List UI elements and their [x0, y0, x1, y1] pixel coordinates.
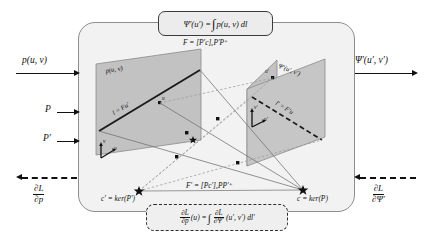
fundamental-forward-label: F = [P′c]ₓP′P⁺ — [183, 38, 228, 47]
grad-psi-arrow — [360, 177, 416, 179]
figure-root: p(u, v) l = Fu′ u v u Ψ′(u′, v′) l′ = F′… — [0, 0, 431, 239]
grad-p-arrowhead — [16, 174, 22, 180]
integral-sign-backward: ∫ — [208, 212, 211, 224]
left-axis-v-label: v — [103, 138, 105, 144]
grad-psi-label: ∂L ∂Ψ′ — [370, 184, 387, 204]
right-axis-v-label: v′ — [254, 104, 258, 110]
grad-psi-fraction: ∂L ∂Ψ′ — [213, 210, 225, 226]
left-camera-center-label: c′ = ker(P′) — [101, 194, 135, 203]
integral-sign: ∫ — [212, 16, 216, 32]
input-P-label: P — [45, 104, 51, 114]
output-signal-arrowhead — [412, 70, 418, 76]
input-signal-arrow — [16, 73, 76, 74]
right-camera-center-label: c = ker(P) — [297, 194, 328, 203]
grad-p-denominator: ∂p — [180, 218, 189, 225]
forward-eq-integrand: p(u, v) dl — [217, 19, 248, 29]
output-signal-arrow — [355, 73, 413, 74]
backward-eq-lhs-arg: (u) = — [191, 213, 207, 222]
grad-psi-output-fraction: ∂L ∂Ψ′ — [371, 184, 386, 204]
fundamental-backward-label: F′ = [Pc′]ₓPP′⁺ — [186, 181, 233, 190]
grad-p-arrow — [22, 177, 77, 179]
forward-equation-box: Ψ′(u′) = ∫ p(u, v) dl — [158, 11, 273, 36]
right-point-u-marker — [271, 76, 274, 79]
grad-psi-output-denominator: ∂Ψ′ — [371, 195, 386, 204]
grad-p-label: ∂L ∂p — [32, 184, 45, 204]
output-signal-label: Ψ′(u′, v′) — [355, 55, 388, 65]
grad-psi-denominator: ∂Ψ′ — [213, 218, 225, 225]
input-signal-label: p(u, v) — [22, 55, 47, 65]
input-Pprime-label: P′ — [43, 133, 51, 143]
grad-psi-arrowhead — [354, 174, 360, 180]
backward-eq-rhs-arg: (u′, v′) dl′ — [226, 213, 255, 222]
grad-p-fraction: ∂L ∂p — [180, 210, 190, 226]
right-axis-u-label: u′ — [264, 116, 268, 122]
left-axis-u-label: u — [114, 145, 117, 151]
input-Pprime-arrowhead — [74, 138, 80, 144]
input-signal-arrowhead — [74, 70, 80, 76]
backward-equation-box: ∂L ∂p (u) = ∫ ∂L ∂Ψ′ (u′, v′) dl′ — [146, 204, 288, 231]
grad-p-output-denominator: ∂p — [33, 195, 44, 204]
forward-eq-lhs: Ψ′(u′) = — [184, 19, 211, 29]
right-point-u-label: u′ — [265, 68, 269, 74]
left-point-u-label: u — [162, 95, 165, 101]
grad-p-output-fraction: ∂L ∂p — [33, 184, 44, 204]
baseline — [139, 190, 303, 191]
input-P-arrowhead — [74, 109, 80, 115]
